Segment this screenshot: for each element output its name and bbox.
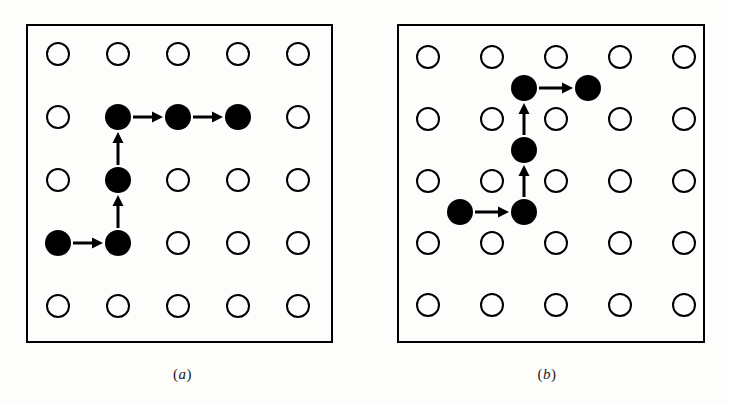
arrow-group-a <box>73 112 223 249</box>
filled-node <box>105 230 131 256</box>
open-circle <box>47 43 69 65</box>
filled-node <box>511 137 537 163</box>
filled-node <box>511 75 537 101</box>
open-circle <box>673 232 695 254</box>
open-circle <box>609 294 631 316</box>
arrow-head-icon <box>519 165 530 176</box>
filled-node <box>105 167 131 193</box>
caption-paren-close-b: ) <box>551 366 557 382</box>
panel-a-caption: (a) <box>0 366 365 383</box>
filled-node <box>45 230 71 256</box>
open-circle <box>417 232 439 254</box>
open-circle <box>609 46 631 68</box>
panel-a-diagram <box>0 0 365 405</box>
arrow-head-icon <box>152 112 163 123</box>
arrow-head-icon <box>113 132 124 143</box>
filled-node <box>575 75 601 101</box>
open-circle <box>673 294 695 316</box>
filled-node <box>511 199 537 225</box>
filled-node <box>447 199 473 225</box>
panel-b-caption: (b) <box>365 366 729 383</box>
caption-letter-b: b <box>543 366 551 382</box>
arrow-head-icon <box>562 83 573 94</box>
open-circle <box>227 295 249 317</box>
filled-node <box>225 104 251 130</box>
open-circle <box>227 43 249 65</box>
open-circle <box>47 106 69 128</box>
open-circle <box>417 108 439 130</box>
open-circle <box>287 43 309 65</box>
caption-letter-a: a <box>179 366 187 382</box>
open-circle <box>417 170 439 192</box>
open-circle <box>167 43 189 65</box>
open-circle <box>287 169 309 191</box>
open-circle <box>545 294 567 316</box>
figure-root: (a) (b) <box>0 0 729 405</box>
filled-node <box>105 104 131 130</box>
open-circle <box>481 294 503 316</box>
open-circle <box>287 232 309 254</box>
caption-paren-close-a: ) <box>187 366 193 382</box>
open-circle <box>673 170 695 192</box>
open-circle <box>417 46 439 68</box>
open-circle <box>609 108 631 130</box>
open-circle <box>417 294 439 316</box>
open-circle <box>609 170 631 192</box>
open-circle <box>167 295 189 317</box>
open-circle <box>545 46 567 68</box>
filled-node <box>165 104 191 130</box>
arrow-head-icon <box>92 238 103 249</box>
open-circle <box>107 295 129 317</box>
open-circle-grid-a <box>47 43 309 317</box>
open-circle <box>287 295 309 317</box>
open-circle <box>609 232 631 254</box>
open-circle <box>287 106 309 128</box>
open-circle <box>673 108 695 130</box>
open-circle <box>227 232 249 254</box>
open-circle <box>545 232 567 254</box>
open-circle <box>167 232 189 254</box>
panel-a: (a) <box>0 0 365 405</box>
filled-node-group-b <box>447 75 601 225</box>
arrow-head-icon <box>498 207 509 218</box>
open-circle <box>167 169 189 191</box>
arrow-head-icon <box>212 112 223 123</box>
open-circle <box>545 170 567 192</box>
open-circle <box>107 43 129 65</box>
open-circle <box>47 169 69 191</box>
arrow-head-icon <box>519 103 530 114</box>
open-circle <box>481 108 503 130</box>
open-circle <box>227 169 249 191</box>
panel-b-diagram <box>365 0 729 405</box>
open-circle <box>673 46 695 68</box>
filled-node-group-a <box>45 104 251 256</box>
open-circle <box>47 295 69 317</box>
arrow-head-icon <box>113 195 124 206</box>
open-circle <box>481 170 503 192</box>
open-circle <box>545 108 567 130</box>
panel-b: (b) <box>365 0 729 405</box>
open-circle <box>481 46 503 68</box>
open-circle <box>481 232 503 254</box>
